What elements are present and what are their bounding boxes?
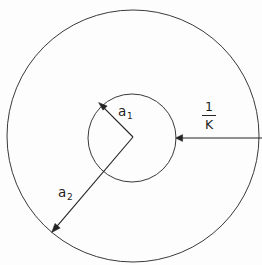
label-a1: a1 xyxy=(118,105,133,121)
gap-arrow-head xyxy=(176,135,183,142)
label-a2: a2 xyxy=(58,186,73,202)
fraction-numerator: 1 xyxy=(202,100,216,114)
label-a2-base: a xyxy=(58,184,66,200)
radius-arrow-a1-head xyxy=(99,103,108,111)
fraction-bar xyxy=(202,115,216,116)
label-a2-subscript: 2 xyxy=(67,192,73,202)
label-a1-subscript: 1 xyxy=(127,111,133,121)
label-one-over-k: 1 K xyxy=(198,100,220,132)
figure-canvas: a1 a2 1 K xyxy=(0,0,262,265)
fraction-one-over-k: 1 K xyxy=(202,100,216,131)
label-a1-base: a xyxy=(118,103,126,119)
fraction-denominator: K xyxy=(202,117,216,131)
radius-arrow-a2-shaft xyxy=(55,137,133,228)
diagram-svg xyxy=(0,0,262,265)
outer-circle xyxy=(7,10,259,262)
